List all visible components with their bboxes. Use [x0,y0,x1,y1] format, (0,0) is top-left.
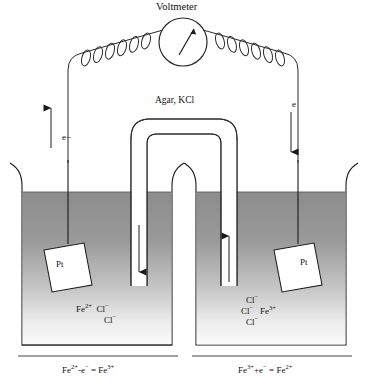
right-ion-line-2: Cl− Fe3+ [241,307,276,316]
right-beaker [184,163,358,345]
left-ion-line-1: Fe2+ Cl− [76,305,109,314]
right-ion-line-3: Cl− [246,318,258,327]
left-ion-fe-charge: 2+ [85,302,92,309]
voltmeter-dial [159,18,207,66]
left-ion-fe: Fe [76,304,85,314]
electrode-left-label: Pt [56,260,64,269]
left-beaker [10,163,184,345]
left-half-reaction: Fe2+-e− = Fe3+ [62,366,114,375]
right-electrolyte [197,192,346,344]
left-ion-cl-2-charge: − [113,313,117,320]
electron-label-right: e [292,100,296,109]
salt-bridge [131,119,237,286]
platinum-electrode-left [44,243,92,292]
voltmeter-label: Voltmeter [156,2,197,13]
left-ion-cl-1-charge: − [105,302,109,309]
left-electrolyte [23,192,172,344]
electrode-right-label: Pt [300,258,308,267]
cell-drawing [0,0,366,386]
left-ion-cl-2: Cl [104,315,113,325]
platinum-electrode-right [274,243,322,292]
right-ion-cl-2-charge: − [250,304,254,311]
electron-label-left: e− [62,133,71,142]
left-ion-cl-1: Cl [97,304,106,314]
salt-bridge-label: Agar, KCl [155,96,194,106]
right-half-reaction: Fe3++e− = Fe2+ [238,366,292,375]
electron-label-left-text: e− [62,132,71,142]
left-ion-line-2: Cl− [104,316,116,325]
right-ion-cl-2: Cl [241,306,250,316]
right-ion-cl-3: Cl [246,317,255,327]
right-ion-fe-charge: 3+ [269,304,276,311]
right-ion-cl-3-charge: − [255,315,259,322]
electrochemical-cell-diagram: Voltmeter Agar, KCl e− e Pt Pt Fe2+ Cl− … [0,0,366,386]
right-ion-fe: Fe [260,306,269,316]
right-ion-cl-1-charge: − [255,293,259,300]
